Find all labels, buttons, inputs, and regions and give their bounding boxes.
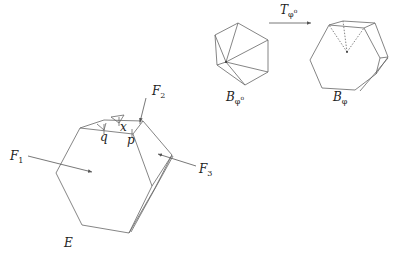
label-f3: F3 [199,163,212,178]
label-e: E [64,237,73,249]
label-p: p [127,134,135,146]
arrow-f3 [158,154,196,166]
arrow-f1 [28,156,92,172]
label-f2: F2 [152,85,165,100]
label-f1: F1 [10,150,23,165]
arrow-f2 [140,98,146,122]
label-b-phi-o: Bφo [226,91,244,106]
diagram-canvas [0,0,394,254]
target-polyhedron [310,21,388,91]
label-b-phi: Bφ [333,91,347,106]
source-hexagon [215,23,268,85]
label-q: q [100,131,108,143]
label-x: x [120,121,127,133]
label-t-phi-o: Tφo [280,4,297,19]
main-polyhedron [56,115,173,233]
